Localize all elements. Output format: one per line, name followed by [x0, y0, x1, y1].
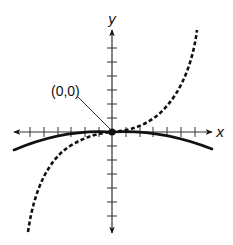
origin-label: (0,0) — [51, 83, 80, 99]
function-graph: x y (0,0) — [0, 0, 233, 245]
x-axis-label: x — [215, 124, 225, 140]
annotation-leader-line — [78, 97, 110, 129]
y-axis-label: y — [107, 11, 117, 27]
origin-point — [108, 128, 115, 135]
